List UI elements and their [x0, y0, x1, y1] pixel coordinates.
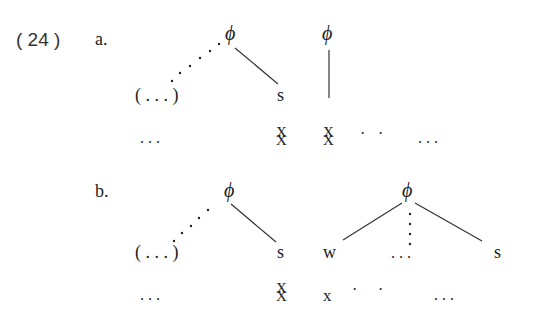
b-optional-left: ( . . . )	[135, 242, 179, 263]
a-optional-left: ( . . . )	[135, 85, 179, 106]
a-right-ellipsis: . . .	[418, 129, 438, 146]
b-s-left-node: s	[277, 242, 284, 262]
b-dot-2: ·	[378, 281, 383, 298]
b-left-ellipsis: . . .	[140, 286, 160, 303]
a-dot-1: ·	[360, 125, 365, 142]
b-x-single: x	[323, 286, 332, 305]
subexample-a-label: a.	[95, 29, 108, 49]
example-number: ( 24 )	[16, 29, 60, 50]
b-dotted-vertical	[409, 213, 411, 245]
a-dot-2: ·	[378, 125, 383, 142]
b-branch-phi-w	[343, 203, 402, 240]
b-dot-1: ·	[352, 281, 357, 298]
b-w-node: w	[323, 242, 336, 262]
b-x-stack-1-bottom: X	[276, 288, 287, 304]
b-dotted-branch	[173, 209, 209, 242]
a-branch-phi-s	[235, 48, 278, 84]
subexample-b-label: b.	[95, 181, 109, 201]
a-dotted-branch	[171, 43, 220, 82]
b-branch-phi-s	[415, 203, 482, 241]
a-left-ellipsis: . . .	[140, 129, 160, 146]
a-x-stack-1-bottom: X	[276, 132, 287, 148]
b-phi-right: ϕ	[402, 179, 412, 202]
a-phi-right: ϕ	[322, 22, 332, 45]
a-phi-left: ϕ	[225, 22, 235, 45]
b-middle-ellipsis: . . .	[391, 244, 411, 261]
b-branch-phi-s	[231, 204, 276, 242]
a-x-stack-2-bottom: X	[323, 132, 334, 148]
a-s-node: s	[277, 85, 284, 105]
b-phi-left: ϕ	[224, 179, 234, 202]
prosodic-tree-diagram: ( 24 ) a. ϕ ϕ ( . . . ) s . . . X X X X …	[0, 0, 534, 318]
b-s-right-node: s	[494, 242, 501, 262]
b-right-ellipsis: . . .	[434, 286, 454, 303]
